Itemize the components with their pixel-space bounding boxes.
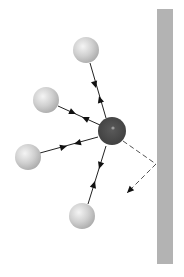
arrow-toward-particle-icon — [98, 96, 104, 104]
arrow-toward-particle-icon — [98, 161, 104, 169]
interaction-line-top — [90, 63, 106, 118]
central-particle-body — [98, 117, 126, 145]
diagram-canvas: Molecule collision with wall (gas pressu… — [0, 0, 184, 277]
interaction-line-bottom — [88, 146, 106, 204]
reflection-path — [123, 141, 156, 193]
force-line — [58, 106, 100, 125]
arrow-toward-center-icon — [90, 181, 96, 189]
arrow-toward-particle-icon — [74, 139, 82, 145]
particle-upper-left — [33, 87, 59, 113]
incoming-path — [123, 141, 156, 164]
molecule-wall-diagram — [0, 0, 184, 277]
arrow-toward-center-icon — [91, 80, 97, 88]
interaction-line-left — [40, 137, 98, 153]
central-particle-highlight — [111, 126, 114, 129]
particle-bottom — [69, 203, 95, 229]
particles — [15, 37, 99, 229]
force-line — [40, 137, 98, 153]
interaction-line-upper-left — [58, 106, 100, 125]
particle-left — [15, 144, 41, 170]
wall-rect — [157, 9, 173, 264]
particle-top — [73, 37, 99, 63]
central-particle — [98, 117, 126, 145]
force-line — [88, 146, 106, 204]
wall — [157, 9, 173, 264]
force-line — [90, 63, 106, 118]
interaction-lines — [40, 63, 106, 204]
